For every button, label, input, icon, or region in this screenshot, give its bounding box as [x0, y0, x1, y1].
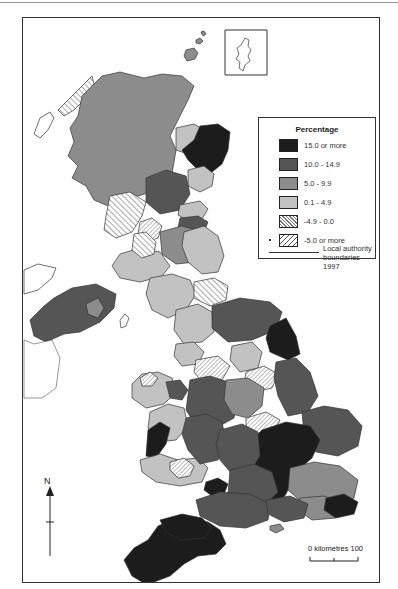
north-arrow-icon [46, 486, 54, 556]
swatch-10-14 [279, 158, 298, 171]
uk-choropleth-map [0, 0, 398, 589]
legend-item: -4.9 - 0.0 [279, 214, 334, 228]
boundary-label: Local authority boundaries 1997 [323, 244, 375, 271]
scale-bar [310, 557, 358, 561]
swatch-neg-5-plus [279, 234, 298, 247]
swatch-15-plus [279, 139, 298, 152]
swatch-5-9 [279, 177, 298, 190]
legend-item: 0.1 - 4.9 [279, 195, 332, 209]
legend-title: Percentage [259, 125, 375, 134]
legend-item: 15.0 or more [279, 138, 347, 152]
north-label: N [44, 476, 51, 486]
legend: Percentage 15.0 or more 10.0 - 14.9 5.0 … [258, 117, 376, 259]
dot-marker [269, 239, 271, 241]
swatch-0-4 [279, 196, 298, 209]
scale-label: 0 kilometres 100 [308, 544, 363, 553]
boundary-line-sample [269, 252, 319, 253]
legend-item: 10.0 - 14.9 [279, 157, 340, 171]
swatch-neg-4-0 [279, 215, 298, 228]
legend-item: 5.0 - 9.9 [279, 176, 332, 190]
